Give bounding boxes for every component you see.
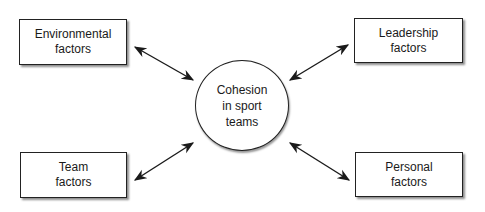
environmental-factors-box: Environmental factors: [19, 19, 127, 65]
personal-factors-label: Personal factors: [385, 160, 432, 190]
arrow-leadership-cohesion: [290, 45, 348, 80]
team-factors-label: Team factors: [55, 160, 91, 190]
arrow-personal-cohesion: [290, 143, 349, 180]
arrow-team-cohesion: [135, 143, 193, 180]
leadership-factors-label: Leadership factors: [379, 26, 438, 56]
team-factors-box: Team factors: [20, 152, 127, 198]
leadership-factors-box: Leadership factors: [354, 18, 463, 63]
personal-factors-box: Personal factors: [355, 152, 463, 197]
cohesion-center-circle: Cohesion in sport teams: [195, 60, 289, 151]
environmental-factors-label: Environmental factors: [35, 27, 112, 57]
arrow-environmental-cohesion: [135, 47, 193, 80]
cohesion-label: Cohesion in sport teams: [217, 82, 268, 130]
